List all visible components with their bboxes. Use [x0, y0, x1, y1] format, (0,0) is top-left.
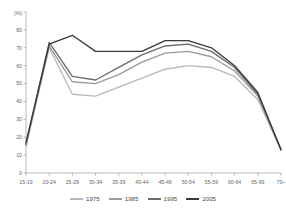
series-line-1995 — [26, 42, 281, 149]
x-axis-tick-label: 70~ — [277, 179, 286, 185]
y-axis-tick-label: 20 — [16, 134, 22, 140]
x-axis-tick-label: 20-24 — [43, 179, 56, 185]
y-axis-tick-label: 0 — [19, 170, 22, 176]
series-line-1975 — [26, 48, 281, 150]
x-axis-tick-label: 30-34 — [89, 179, 102, 185]
chart-svg: (%)8070605040302010015-1920-2425-2930-34… — [0, 0, 286, 215]
y-axis-unit-label: (%) — [14, 10, 22, 16]
legend-item-1975[interactable]: 1975 — [70, 196, 100, 202]
y-axis-tick-label: 60 — [16, 63, 22, 69]
chart-container: (%)8070605040302010015-1920-2425-2930-34… — [0, 0, 286, 215]
x-axis-tick-label: 55-59 — [205, 179, 218, 185]
legend-swatch-1985 — [109, 198, 122, 200]
y-axis-tick-label: 50 — [16, 80, 22, 86]
legend-swatch-1975 — [70, 198, 83, 200]
x-axis-tick-label: 65-69 — [251, 179, 264, 185]
y-axis-tick-label: 40 — [16, 98, 22, 104]
line-chart-plot: (%)8070605040302010015-1920-2425-2930-34… — [0, 0, 286, 215]
legend-label-1975: 1975 — [86, 196, 100, 202]
legend-swatch-2005 — [186, 198, 199, 200]
y-axis-tick-label: 10 — [16, 152, 22, 158]
legend-item-1985[interactable]: 1985 — [109, 196, 139, 202]
legend-label-2005: 2005 — [202, 196, 216, 202]
x-axis-tick-label: 40-44 — [135, 179, 148, 185]
x-axis-tick-label: 15-19 — [19, 179, 32, 185]
legend-item-2005[interactable]: 2005 — [186, 196, 216, 202]
x-axis-tick-label: 35-39 — [112, 179, 125, 185]
series-line-1985 — [26, 46, 281, 150]
y-axis-tick-label: 80 — [16, 27, 22, 33]
x-axis-tick-label: 60-64 — [228, 179, 241, 185]
legend-item-1995[interactable]: 1995 — [148, 196, 178, 202]
series-line-2005 — [26, 35, 281, 149]
legend-swatch-1995 — [148, 198, 161, 200]
x-axis-tick-label: 25-29 — [66, 179, 79, 185]
legend-label-1985: 1985 — [125, 196, 139, 202]
chart-legend: 1975198519952005 — [0, 196, 286, 202]
legend-label-1995: 1995 — [164, 196, 178, 202]
x-axis-tick-label: 45-49 — [158, 179, 171, 185]
x-axis-tick-label: 50-54 — [182, 179, 195, 185]
y-axis-tick-label: 70 — [16, 45, 22, 51]
y-axis-tick-label: 30 — [16, 116, 22, 122]
